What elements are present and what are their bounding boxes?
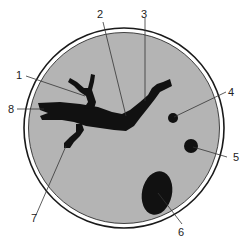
callout-label-7: 7: [31, 212, 37, 224]
callout-label-4: 4: [228, 86, 234, 98]
callout-label-3: 3: [141, 8, 147, 20]
colony-medium: [184, 139, 198, 153]
labeled-circle-diagram: 1 2 3 4 5 6 7 8: [0, 0, 240, 236]
callout-label-8: 8: [8, 103, 14, 115]
colony-small: [168, 113, 178, 123]
callout-label-1: 1: [16, 69, 22, 81]
callout-label-5: 5: [233, 151, 239, 163]
callout-label-2: 2: [97, 8, 103, 20]
callout-label-6: 6: [178, 226, 184, 236]
